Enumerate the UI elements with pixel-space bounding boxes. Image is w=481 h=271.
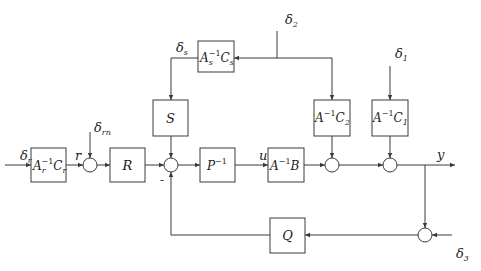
summing-junction-5 [418,228,432,242]
label-minus: - [160,173,164,186]
block-diagram: Ar−1Cr R S As−1Cs P−1 A−1B A−1C2 [0,0,481,271]
block-Q: Q [270,218,305,253]
summing-junction-2 [164,158,178,172]
block-As-inv-Cs: As−1Cs [198,41,234,72]
summing-junction-1 [83,158,97,172]
block-A-inv-B: A−1B [268,148,304,182]
label-delta-3: δ3 [456,246,469,263]
summing-junction-3 [325,158,339,172]
block-A-inv-C1: A−1C1 [372,100,408,136]
block-Ar-inv-Cr: Ar−1Cr [31,148,67,182]
svg-text:S: S [166,111,175,126]
block-P-inv: P−1 [200,148,235,182]
wire-delta-s [171,58,198,100]
label-y: y [436,147,445,162]
svg-text:R: R [122,158,133,173]
label-delta-s: δs [176,40,188,57]
svg-text:Q: Q [282,228,293,243]
label-delta-1: δ1 [395,46,408,63]
block-A-inv-C2: A−1C2 [314,100,350,136]
block-R: R [110,148,145,182]
summing-junction-4 [383,158,397,172]
label-delta-2: δ2 [285,12,298,29]
label-u: u [259,148,267,163]
label-r: r [75,148,82,163]
block-S: S [153,100,188,136]
label-delta-rn: δrn [94,120,111,137]
